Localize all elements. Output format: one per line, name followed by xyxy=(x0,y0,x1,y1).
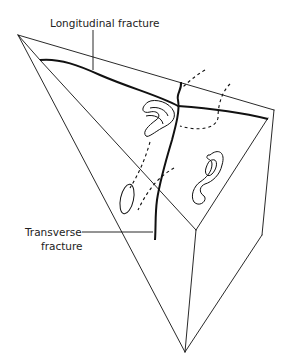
transverse-fracture-label-line1: Transverse xyxy=(25,226,82,239)
temporal-bone-diagram xyxy=(0,0,287,363)
transverse-fracture-label-line2: fracture xyxy=(41,240,83,253)
longitudinal-fracture-label: Longitudinal fracture xyxy=(50,17,160,30)
pyramid-outline xyxy=(18,35,274,352)
oval-structure xyxy=(118,183,137,215)
vestibule-icon xyxy=(192,152,223,205)
longitudinal-fracture-line xyxy=(40,60,268,119)
cochlea-icon xyxy=(143,100,174,136)
